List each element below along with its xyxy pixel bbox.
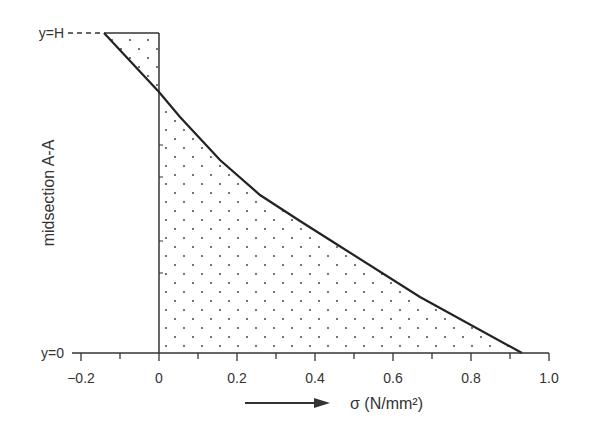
x-tick-label: 0.6 — [383, 370, 403, 386]
x-tick-label: 1.0 — [539, 370, 559, 386]
main-stress-region — [159, 92, 522, 353]
arrowhead-icon — [314, 398, 330, 408]
x-tick-label: 0.8 — [461, 370, 481, 386]
x-tick-label: 0.4 — [305, 370, 325, 386]
x-tick-label: 0 — [155, 370, 163, 386]
x-tick-label: 0.2 — [227, 370, 247, 386]
y-bottom-label: y=0 — [41, 345, 64, 361]
y-top-label: y=H — [39, 25, 64, 41]
y-axis-label: midsection A-A — [40, 139, 57, 246]
x-axis-label: σ (N/mm²) — [350, 395, 423, 412]
stress-chart: −0.2 0 0.2 0.4 0.6 0.8 1.0 y=H y=0 midse… — [0, 0, 592, 428]
x-tick-label: −0.2 — [67, 370, 95, 386]
x-ticks — [81, 353, 549, 361]
